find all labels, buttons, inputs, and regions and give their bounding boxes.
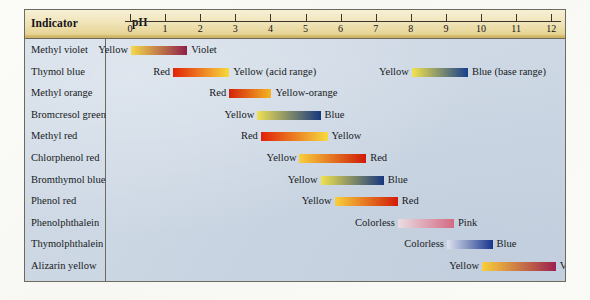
indicator-transition-bar bbox=[173, 68, 229, 77]
indicator-transition-bar bbox=[482, 262, 556, 271]
ph-tick-10 bbox=[481, 14, 482, 21]
indicator-name: Thymolphthalein bbox=[31, 238, 103, 249]
bar-right-label: Yellow (acid range) bbox=[233, 66, 316, 77]
chart-body: Methyl violetYellowVioletThymol blueRedY… bbox=[24, 39, 566, 282]
ph-tick-3 bbox=[235, 14, 236, 21]
ph-axis-line bbox=[125, 21, 561, 22]
bar-left-label: Yellow bbox=[302, 195, 332, 206]
ph-tick-label-11: 11 bbox=[507, 23, 525, 34]
bar-right-label: Blue bbox=[497, 238, 517, 249]
bar-right-label: Yellow-orange bbox=[275, 87, 337, 98]
bar-right-label: Blue bbox=[325, 109, 345, 120]
indicator-row: Bromthymol blueYellowBlue bbox=[25, 171, 566, 193]
indicator-name: Methyl red bbox=[31, 130, 77, 141]
bar-right-label: Yellow bbox=[332, 130, 362, 141]
ph-tick-12 bbox=[551, 14, 552, 21]
indicator-name: Phenolphthalein bbox=[31, 217, 99, 228]
bar-left-label: Yellow bbox=[449, 260, 479, 271]
ph-tick-11 bbox=[516, 14, 517, 21]
indicator-transition-bar bbox=[412, 68, 468, 77]
ph-axis: 0123456789101112 bbox=[104, 9, 566, 39]
indicator-transition-bar bbox=[335, 197, 398, 206]
bar-right-label: Blue (base range) bbox=[472, 66, 546, 77]
ph-tick-label-9: 9 bbox=[437, 23, 455, 34]
bar-left-label: Red bbox=[241, 130, 258, 141]
ph-tick-label-4: 4 bbox=[261, 23, 279, 34]
indicator-transition-bar bbox=[398, 219, 454, 228]
indicator-name: Methyl orange bbox=[31, 87, 93, 98]
indicator-row: Methyl orangeRedYellow-orange bbox=[25, 84, 566, 106]
indicator-name: Bromcresol green bbox=[31, 109, 106, 120]
bar-right-label: Red bbox=[402, 195, 419, 206]
ph-tick-7 bbox=[376, 14, 377, 21]
indicator-name: Bromthymol blue bbox=[31, 174, 105, 185]
bar-left-label: Red bbox=[153, 66, 170, 77]
ph-tick-label-2: 2 bbox=[191, 23, 209, 34]
indicator-name: Thymol blue bbox=[31, 66, 85, 77]
indicator-row: ThymolphthaleinColorlessBlue bbox=[25, 235, 566, 257]
ph-tick-6 bbox=[341, 14, 342, 21]
ph-tick-label-10: 10 bbox=[472, 23, 490, 34]
ph-tick-4 bbox=[270, 14, 271, 21]
ph-tick-label-8: 8 bbox=[402, 23, 420, 34]
indicator-name: Methyl violet bbox=[31, 44, 88, 55]
bar-right-label: Red bbox=[370, 152, 387, 163]
indicator-transition-bar bbox=[131, 46, 187, 55]
indicator-row: Alizarin yellowYellowViolet bbox=[25, 257, 566, 279]
indicator-transition-bar bbox=[321, 176, 384, 185]
ph-tick-label-7: 7 bbox=[367, 23, 385, 34]
ph-tick-label-0: 0 bbox=[121, 23, 139, 34]
indicator-row: PhenolphthaleinColorlessPink bbox=[25, 214, 566, 236]
indicator-transition-bar bbox=[299, 154, 366, 163]
indicator-name: Phenol red bbox=[31, 195, 76, 206]
indicator-name: Chlorphenol red bbox=[31, 152, 100, 163]
ph-tick-label-3: 3 bbox=[226, 23, 244, 34]
bar-right-label: Blue bbox=[388, 174, 408, 185]
indicator-transition-bar bbox=[229, 89, 271, 98]
indicator-row: Bromcresol greenYellowBlue bbox=[25, 106, 566, 128]
bar-left-label: Yellow bbox=[98, 44, 128, 55]
bar-right-label: Violet bbox=[191, 44, 217, 55]
ph-tick-5 bbox=[306, 14, 307, 21]
indicator-transition-bar bbox=[257, 111, 320, 120]
bar-left-label: Colorless bbox=[355, 217, 395, 228]
indicator-name: Alizarin yellow bbox=[31, 260, 97, 271]
ph-tick-0 bbox=[130, 14, 131, 21]
bar-right-label: Violet bbox=[560, 260, 566, 271]
indicator-row: Phenol redYellowRed bbox=[25, 192, 566, 214]
ph-tick-label-6: 6 bbox=[332, 23, 350, 34]
indicator-transition-bar bbox=[261, 132, 328, 141]
bar-left-label: Yellow bbox=[267, 152, 297, 163]
bar-left-label: Red bbox=[209, 87, 226, 98]
bar-left-label: Yellow bbox=[225, 109, 255, 120]
ph-tick-label-12: 12 bbox=[542, 23, 560, 34]
indicator-row: Chlorphenol redYellowRed bbox=[25, 149, 566, 171]
bar-left-label: Yellow bbox=[379, 66, 409, 77]
indicator-row: Methyl violetYellowViolet bbox=[25, 41, 566, 63]
indicator-ph-chart-figure: Methyl violetYellowVioletThymol blueRedY… bbox=[0, 0, 590, 300]
ph-tick-8 bbox=[411, 14, 412, 21]
ph-tick-9 bbox=[446, 14, 447, 21]
bar-left-label: Colorless bbox=[404, 238, 444, 249]
ph-tick-2 bbox=[200, 14, 201, 21]
ph-tick-label-5: 5 bbox=[297, 23, 315, 34]
bar-right-label: Pink bbox=[458, 217, 477, 228]
indicator-transition-bar bbox=[447, 240, 493, 249]
ph-tick-label-1: 1 bbox=[156, 23, 174, 34]
indicator-row: Methyl redRedYellow bbox=[25, 127, 566, 149]
indicator-column-header: Indicator bbox=[31, 17, 78, 29]
indicator-row: Thymol blueRedYellow (acid range)YellowB… bbox=[25, 63, 566, 85]
ph-tick-1 bbox=[165, 14, 166, 21]
bar-left-label: Yellow bbox=[288, 174, 318, 185]
